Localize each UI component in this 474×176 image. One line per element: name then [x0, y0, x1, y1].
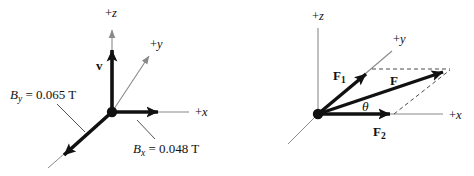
- theta-angle-label: θ: [362, 99, 369, 114]
- left-panel: +z +y +x v By = 0.065 T Bx = 0.048 T: [10, 6, 208, 168]
- f2-vector-label: F2: [373, 124, 386, 141]
- origin-dot: [107, 107, 117, 117]
- dashed-line-f2-to-resultant: [394, 70, 450, 114]
- y-axis-label: +y: [150, 37, 163, 51]
- by-leader-line: [57, 104, 85, 132]
- figure-canvas: +z +y +x v By = 0.065 T Bx = 0.048 T: [0, 0, 474, 176]
- by-field-label: By = 0.065 T: [10, 87, 76, 104]
- y-axis-label-right: +y: [393, 32, 406, 46]
- y-axis-line: [112, 56, 149, 112]
- z-axis-label-right: +z: [312, 9, 324, 23]
- f1-vector-label: F1: [333, 68, 346, 85]
- z-axis-label: +z: [105, 6, 117, 20]
- bx-leader-line: [137, 120, 155, 139]
- right-panel: +z +y +x F1 F F2 θ: [288, 9, 462, 144]
- x-axis-label-right: +x: [449, 108, 462, 122]
- x-axis-label: +x: [195, 105, 208, 119]
- negative-axis-line-right: [288, 114, 318, 144]
- bx-field-label: Bx = 0.048 T: [133, 141, 199, 158]
- physics-figure: +z +y +x v By = 0.065 T Bx = 0.048 T: [0, 0, 474, 176]
- velocity-vector-label: v: [96, 58, 103, 73]
- f-resultant-vector-label: F: [390, 73, 398, 88]
- origin-dot-right: [313, 109, 323, 119]
